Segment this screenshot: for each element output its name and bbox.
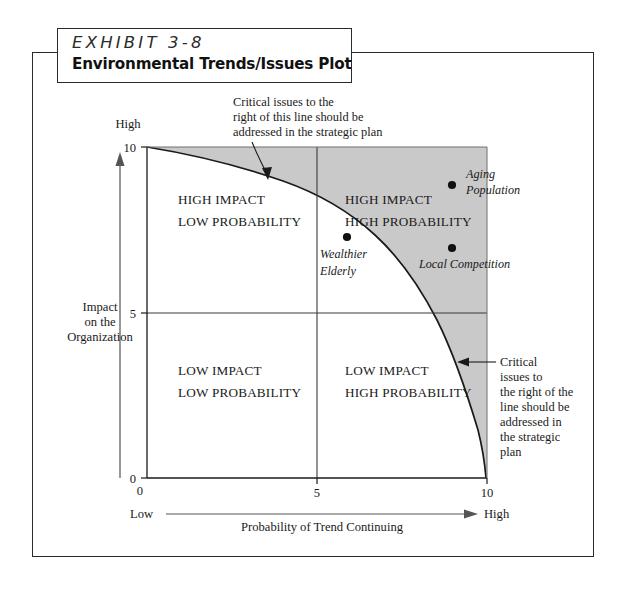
exhibit-title-box: EXHIBIT 3-8 Environmental Trends/Issues … <box>57 28 352 83</box>
exhibit-title: Environmental Trends/Issues Plot <box>72 55 351 75</box>
exhibit-page: EXHIBIT 3-8 Environmental Trends/Issues … <box>0 0 622 590</box>
exhibit-outer-frame <box>32 52 594 557</box>
exhibit-number: EXHIBIT 3-8 <box>72 34 351 53</box>
